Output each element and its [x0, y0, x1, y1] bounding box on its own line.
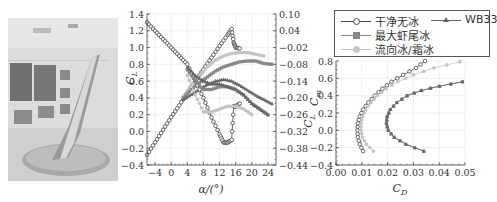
svg-text:−0.2: −0.2 — [310, 142, 333, 153]
svg-text:0.04: 0.04 — [429, 167, 450, 178]
square-marker-icon — [341, 30, 371, 40]
chart-legend: 干净无冰 WB33 最大虾尾冰 流向冰/霜冰 — [334, 10, 490, 57]
circle-marker-icon — [341, 16, 371, 26]
chart1-series — [145, 21, 274, 157]
svg-text:1.0: 1.0 — [129, 42, 144, 53]
svg-text:0.8: 0.8 — [318, 56, 333, 67]
svg-text:0.0: 0.0 — [318, 125, 333, 136]
svg-text:0.0: 0.0 — [129, 126, 144, 137]
svg-text:20: 20 — [246, 167, 258, 178]
svg-text:−4: −4 — [148, 167, 162, 178]
svg-text:0: 0 — [168, 167, 174, 178]
legend-item-wb33: WB33 — [431, 13, 497, 26]
svg-text:0.2: 0.2 — [129, 109, 144, 120]
triangle-marker-icon — [431, 15, 461, 25]
svg-text:4: 4 — [184, 167, 190, 178]
svg-text:−0.44: −0.44 — [279, 160, 308, 171]
svg-text:−0.4: −0.4 — [310, 160, 333, 171]
svg-text:−0.14: −0.14 — [279, 76, 308, 87]
svg-text:24: 24 — [262, 167, 274, 178]
chart1-x-axis-label: α/(°) — [198, 183, 223, 196]
svg-text:8: 8 — [200, 167, 206, 178]
dot-marker-icon — [341, 44, 371, 54]
svg-text:−0.26: −0.26 — [279, 109, 308, 120]
svg-text:−0.02: −0.02 — [279, 42, 308, 53]
svg-text:1.2: 1.2 — [129, 25, 144, 36]
svg-text:0.04: 0.04 — [279, 25, 300, 36]
svg-text:0.02: 0.02 — [377, 167, 398, 178]
svg-text:−0.2: −0.2 — [121, 143, 144, 154]
svg-text:0.4: 0.4 — [318, 90, 333, 101]
svg-text:0.03: 0.03 — [403, 167, 424, 178]
svg-text:−0.38: −0.38 — [279, 143, 308, 154]
chart2-x-axis-label: CD — [393, 182, 408, 197]
svg-text:0.2: 0.2 — [318, 108, 333, 119]
svg-text:1.4: 1.4 — [129, 9, 144, 20]
svg-text:16: 16 — [230, 167, 242, 178]
svg-text:12: 12 — [214, 167, 226, 178]
chart1-y-axis-label: CL — [124, 71, 139, 85]
svg-text:0.10: 0.10 — [279, 9, 300, 20]
svg-text:−0.08: −0.08 — [279, 59, 308, 70]
chart2-series — [356, 59, 465, 153]
svg-text:0.8: 0.8 — [129, 59, 144, 70]
legend-item-streamwise-rime-ice: 流向冰/霜冰 — [341, 41, 434, 57]
svg-text:−0.20: −0.20 — [279, 92, 308, 103]
chart2-axes: 0.000.010.020.030.040.05−0.4−0.20.00.20.… — [310, 56, 476, 179]
svg-text:0.05: 0.05 — [454, 167, 475, 178]
svg-text:0.01: 0.01 — [351, 167, 372, 178]
svg-text:0.4: 0.4 — [129, 92, 144, 103]
svg-text:−0.4: −0.4 — [121, 160, 144, 171]
svg-text:0.6: 0.6 — [318, 73, 333, 84]
